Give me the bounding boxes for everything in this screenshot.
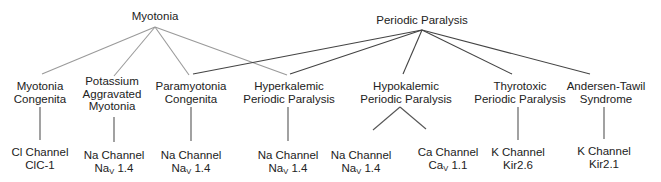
edge-periodic-ttpp [422,30,512,74]
edge-periodic-ats [422,30,590,74]
channel-subtype: CaV 1.1 [418,159,479,176]
myotonia-edges [42,27,287,76]
root-label: Myotonia [132,10,179,23]
node-label-line: Congenita [156,93,227,106]
channel-type: Ca Channel [418,146,479,159]
node-label-line: Periodic Paralysis [474,93,565,106]
channel-na-nav14-pam: Na Channel NaV 1.4 [84,149,145,178]
channel-type: Na Channel [331,149,392,162]
channel-cl-clc1: Cl Channel ClC-1 [12,146,69,171]
channel-type: Na Channel [84,149,145,162]
edge-myotonia-mc [42,27,155,74]
channel-type: Na Channel [258,149,319,162]
edge-myotonia-pam [114,27,155,76]
periodic-edges [193,30,590,74]
channel-subtype: NaV 1.4 [331,162,392,179]
node-label-line: Hyperkalemic [243,80,334,93]
channel-k-kir21: K Channel Kir2.1 [577,145,631,170]
node-andersen-tawil-syndrome: Andersen-Tawil Syndrome [567,80,646,105]
node-label-line: Paramyotonia [156,80,227,93]
node-paramyotonia-congenita: Paramyotonia Congenita [156,80,227,105]
node-label-line: Myotonia [83,100,142,113]
node-thyrotoxic-periodic-paralysis: Thyrotoxic Periodic Paralysis [474,80,565,105]
channel-subtype: Kir2.6 [491,159,545,172]
edge-myotonia-hyperpp [155,27,287,75]
node-label-line: Hypokalemic [360,80,451,93]
node-label-line: Periodic Paralysis [243,93,334,106]
channel-na-nav14-hypopp: Na Channel NaV 1.4 [331,149,392,178]
node-potassium-aggravated-myotonia: Potassium Aggravated Myotonia [83,75,142,113]
node-label-line: Myotonia [14,80,66,93]
root-myotonia: Myotonia [132,10,179,23]
channel-type: Na Channel [161,149,222,162]
channel-na-nav14-hyperpp: Na Channel NaV 1.4 [258,149,319,178]
node-myotonia-congenita: Myotonia Congenita [14,80,66,105]
node-hypokalemic-periodic-paralysis: Hypokalemic Periodic Paralysis [360,80,451,105]
channel-subtype: NaV 1.4 [84,162,145,179]
channel-subtype: NaV 1.4 [161,162,222,179]
channel-type: K Channel [491,146,545,159]
node-label-line: Andersen-Tawil [567,80,646,93]
channel-ca-cav11: Ca Channel CaV 1.1 [418,146,479,175]
node-hyperkalemic-periodic-paralysis: Hyperkalemic Periodic Paralysis [243,80,334,105]
edge-periodic-pmc [193,30,422,74]
root-label: Periodic Paralysis [376,14,467,27]
channel-subtype: NaV 1.4 [258,162,319,179]
node-label-line: Potassium [83,75,142,88]
channel-type: K Channel [577,145,631,158]
channel-type: Cl Channel [12,146,69,159]
channel-k-kir26: K Channel Kir2.6 [491,146,545,171]
channel-na-nav14-pmc: Na Channel NaV 1.4 [161,149,222,178]
node-label-line: Aggravated [83,88,142,101]
node-label-line: Periodic Paralysis [360,93,451,106]
root-periodic-paralysis: Periodic Paralysis [376,14,467,27]
node-label-line: Syndrome [567,93,646,106]
edge-periodic-hypopp [403,30,422,74]
edge-hypopp-c6 [400,107,426,129]
node-label-line: Thyrotoxic [474,80,565,93]
channel-subtype: ClC-1 [12,159,69,172]
edge-myotonia-pmc [155,27,189,75]
channel-subtype: Kir2.1 [577,158,631,171]
edge-hypopp-c5 [373,107,400,130]
node-label-line: Congenita [14,93,66,106]
